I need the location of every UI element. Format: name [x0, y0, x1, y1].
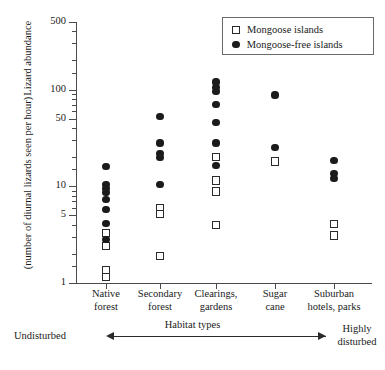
data-point-mongoose-island [102, 242, 110, 250]
highly-disturbed-label: Highly disturbed [330, 323, 384, 348]
x-cat-line: hotels, parks [307, 301, 360, 312]
open-square-icon [232, 26, 240, 34]
y-tick-major [69, 186, 76, 187]
data-point-mongoose-island [102, 273, 110, 281]
data-point-mongoose-island [212, 153, 220, 161]
y-tick-minor [72, 201, 76, 202]
data-point-mongoose-free-island [212, 88, 219, 95]
data-point-mongoose-island [212, 176, 220, 184]
y-tick-major [69, 283, 76, 284]
y-tick-label: 500 [26, 15, 66, 26]
lizard-abundance-scatter-chart: (number of diurnal lizards seen per hour… [0, 0, 385, 370]
gradient-arrow-line [114, 336, 326, 337]
data-point-mongoose-island [271, 157, 279, 165]
x-cat-line: forest [148, 301, 172, 312]
data-point-mongoose-free-island [102, 236, 109, 243]
legend-label: Mongoose islands [247, 24, 323, 35]
data-point-mongoose-free-island [156, 181, 163, 188]
data-point-mongoose-free-island [102, 220, 109, 227]
x-axis-line [76, 283, 372, 284]
y-tick-label: 5 [26, 208, 66, 219]
y-tick-minor [72, 191, 76, 192]
data-point-mongoose-free-island [102, 206, 109, 213]
data-point-mongoose-free-island [156, 139, 163, 146]
data-point-mongoose-free-island [271, 91, 278, 98]
y-tick-minor [72, 169, 76, 170]
data-point-mongoose-island [212, 221, 220, 229]
data-point-mongoose-island [156, 252, 164, 260]
y-tick-minor [72, 208, 76, 209]
x-cat-line: forest [94, 301, 118, 312]
highly-disturbed-line2: disturbed [337, 336, 376, 347]
y-tick-minor [72, 157, 76, 158]
undisturbed-label: Undisturbed [14, 330, 66, 341]
legend-box: Mongoose islands Mongoose-free islands [222, 17, 374, 55]
filled-circle-icon [232, 41, 239, 48]
arrow-head-right-icon [318, 332, 326, 340]
y-tick-minor [72, 105, 76, 106]
data-point-mongoose-island [156, 210, 164, 218]
y-tick-minor [72, 254, 76, 255]
data-point-mongoose-free-island [102, 196, 109, 203]
data-point-mongoose-free-island [156, 154, 163, 161]
y-tick-label: 1 [26, 276, 66, 287]
data-point-mongoose-free-island [330, 157, 337, 164]
y-tick-minor [72, 225, 76, 226]
data-point-mongoose-free-island [212, 162, 219, 169]
data-point-mongoose-free-island [271, 144, 278, 151]
y-tick-minor [72, 140, 76, 141]
y-tick-minor [72, 99, 76, 100]
y-axis-title: (number of diurnal lizards seen per hour… [11, 30, 45, 260]
x-cat-line: Sugar [263, 288, 288, 299]
data-point-mongoose-free-island [156, 113, 163, 120]
data-point-mongoose-free-island [212, 139, 219, 146]
data-point-mongoose-free-island [212, 119, 219, 126]
x-category-label: Suburbanhotels, parks [290, 288, 378, 313]
y-tick-major [69, 22, 76, 23]
legend-item-mongoose-free-islands: Mongoose-free islands [232, 37, 373, 52]
disturbance-gradient-annotation: Habitat types Undisturbed Highly disturb… [0, 318, 385, 362]
arrow-head-left-icon [106, 332, 114, 340]
y-tick-minor [72, 60, 76, 61]
y-tick-major [69, 215, 76, 216]
y-tick-minor [72, 266, 76, 267]
data-point-mongoose-free-island [102, 163, 109, 170]
x-cat-line: Suburban [314, 288, 354, 299]
legend-label: Mongoose-free islands [247, 39, 343, 50]
y-tick-major [69, 119, 76, 120]
y-tick-minor [72, 111, 76, 112]
data-point-mongoose-free-island [330, 175, 337, 182]
y-tick-label: 10 [26, 179, 66, 190]
data-point-mongoose-island [330, 231, 338, 239]
x-cat-line: gardens [200, 301, 233, 312]
data-point-mongoose-island [330, 220, 338, 228]
y-tick-minor [72, 43, 76, 44]
y-axis-line [76, 22, 77, 284]
y-tick-minor [72, 94, 76, 95]
y-tick-minor [72, 73, 76, 74]
y-tick-minor [72, 31, 76, 32]
y-tick-minor [72, 128, 76, 129]
data-point-mongoose-free-island [212, 101, 219, 108]
y-tick-minor [72, 237, 76, 238]
y-tick-minor [72, 196, 76, 197]
x-cat-line: cane [265, 301, 284, 312]
data-point-mongoose-island [212, 187, 220, 195]
highly-disturbed-line1: Highly [342, 323, 371, 334]
y-tick-major [69, 90, 76, 91]
plot-area [76, 22, 372, 284]
x-axis-caption: Habitat types [0, 319, 385, 330]
legend-item-mongoose-islands: Mongoose islands [232, 22, 373, 37]
y-tick-label: 50 [26, 112, 66, 123]
y-tick-label: 100 [26, 83, 66, 94]
